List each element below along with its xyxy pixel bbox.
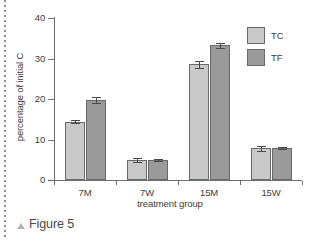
bar-tc-15w <box>251 148 271 180</box>
error-bar-cap-upper <box>195 61 204 62</box>
error-bar-cap-lower <box>216 48 225 49</box>
x-axis-tick-label: 15M <box>179 188 239 198</box>
y-axis-tick-label: 0 <box>40 175 45 185</box>
error-bar-cap-lower <box>154 161 163 162</box>
error-bar-cap-lower <box>133 162 142 163</box>
x-axis-tick-label: 7W <box>117 188 177 198</box>
figure-bar-chart: 010203040 7M7W15M15W percentage of initi… <box>0 0 313 205</box>
x-axis-tick-label: 15W <box>241 188 301 198</box>
x-axis-tick <box>116 181 117 185</box>
error-bar-cap-lower <box>257 151 266 152</box>
error-bar-cap-lower <box>71 123 80 124</box>
bar-tf-7w <box>148 160 168 180</box>
legend-label-tf: TF <box>271 53 282 63</box>
error-bar-cap-upper <box>257 146 266 147</box>
y-axis-tick <box>48 59 54 60</box>
error-bar-cap-upper <box>71 120 80 121</box>
bar-tc-15m <box>189 64 209 180</box>
x-axis-tick <box>178 181 179 185</box>
figure-caption: Figure 5 <box>17 218 74 231</box>
error-bar-cap-upper <box>133 158 142 159</box>
x-axis-tick <box>240 181 241 185</box>
y-axis-tick <box>48 18 54 19</box>
legend-swatch-tf <box>247 49 265 66</box>
error-bar-cap-lower <box>195 68 204 69</box>
y-axis-tick <box>48 140 54 141</box>
error-bar-cap-upper <box>278 147 287 148</box>
caption-triangle-icon <box>17 223 25 229</box>
legend-item-tc: TC <box>247 27 307 46</box>
x-axis-tick <box>54 181 55 185</box>
caption-label: Figure 5 <box>29 218 74 231</box>
y-axis-tick-label: 40 <box>35 13 45 23</box>
legend-swatch-tc <box>247 27 265 44</box>
error-bar-cap-upper <box>92 97 101 98</box>
error-bar-stem <box>199 61 200 68</box>
error-bar-cap-lower <box>278 149 287 150</box>
chart-legend: TCTF <box>247 27 307 71</box>
y-axis-title: percentage of initial C <box>15 27 25 167</box>
y-axis-tick-label: 30 <box>35 54 45 64</box>
x-axis-tick-label: 7M <box>55 188 115 198</box>
bar-tf-15m <box>210 45 230 180</box>
bar-tf-7m <box>86 100 106 180</box>
y-axis-line <box>54 17 55 181</box>
y-axis-tick-label: 20 <box>35 94 45 104</box>
error-bar-cap-lower <box>92 103 101 104</box>
legend-item-tf: TF <box>247 49 307 68</box>
error-bar-cap-upper <box>216 43 225 44</box>
legend-label-tc: TC <box>271 31 283 41</box>
error-bar-cap-upper <box>154 159 163 160</box>
x-axis-tick <box>302 181 303 185</box>
bar-tc-7m <box>65 122 85 180</box>
bar-tf-15w <box>272 148 292 180</box>
y-axis-tick <box>48 99 54 100</box>
x-axis-title: treatment group <box>0 199 313 209</box>
y-axis-tick-label: 10 <box>35 135 45 145</box>
